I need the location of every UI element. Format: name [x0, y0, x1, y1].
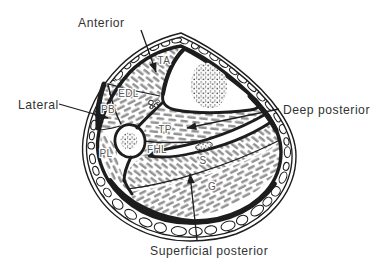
muscle-label-g: G: [208, 181, 216, 192]
muscle-label-ta: TA: [158, 55, 171, 66]
muscle-label-s: S: [199, 155, 206, 166]
muscle-label-pb: PB: [101, 104, 115, 115]
figure-canvas: Anterior Lateral Deep posterior Superfic…: [0, 0, 378, 267]
muscle-label-fhl: FHL: [147, 144, 167, 155]
label-superficial-posterior: Superficial posterior: [150, 244, 268, 258]
leg-cross-section-figure: Anterior Lateral Deep posterior Superfic…: [0, 0, 378, 267]
fibula-marrow-stipple: [121, 133, 138, 150]
label-deep-posterior: Deep posterior: [283, 103, 370, 117]
muscle-label-tp: TP: [158, 124, 172, 135]
muscle-label-edl: EDL: [118, 88, 139, 99]
muscle-label-pl: PL: [99, 148, 112, 159]
label-anterior: Anterior: [78, 16, 125, 30]
label-lateral: Lateral: [18, 98, 59, 112]
